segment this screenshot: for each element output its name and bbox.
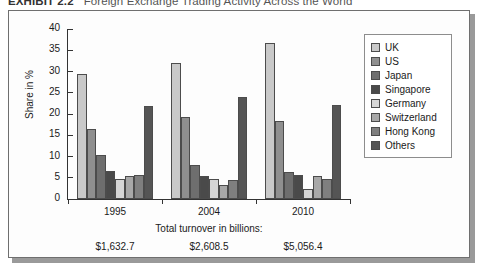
legend-swatch-icon: [371, 57, 380, 66]
legend-swatch-icon: [371, 71, 380, 80]
legend-item-japan[interactable]: Japan: [371, 68, 446, 82]
legend-swatch-icon: [371, 127, 380, 136]
legend-label: US: [385, 56, 399, 67]
bar-uk-1995: [77, 74, 87, 199]
legend-swatch-icon: [371, 43, 380, 52]
turnover-caption: Total turnover in billions:: [155, 223, 262, 234]
turnover-value-2004: $2,608.5: [190, 241, 229, 252]
y-tick-label: 20: [49, 107, 60, 118]
bar-us-1995: [87, 129, 97, 199]
legend-item-us[interactable]: US: [371, 54, 446, 68]
bar-germany-2004: [209, 179, 219, 199]
legend-label: Japan: [385, 70, 412, 81]
chart-container: Share in % 0510152025303540 199520042010…: [9, 11, 471, 259]
bar-switzerland-1995: [125, 176, 135, 199]
x-tick-mark: [256, 199, 257, 204]
y-tick-label: 30: [49, 65, 60, 76]
y-tick-label: 5: [54, 171, 60, 182]
legend-label: Germany: [385, 98, 426, 109]
x-axis-label-1995: 1995: [104, 206, 126, 217]
y-tick-label: 40: [49, 22, 60, 33]
x-tick-mark: [350, 199, 351, 204]
legend-item-switzerland[interactable]: Switzerland: [371, 110, 446, 124]
bar-others-2004: [238, 97, 248, 199]
exhibit-title: EXHIBIT 2.2Foreign Exchange Trading Acti…: [8, 0, 352, 9]
legend-label: Switzerland: [385, 112, 437, 123]
legend-label: Singapore: [385, 84, 431, 95]
bar-hong-kong-1995: [134, 175, 144, 199]
x-tick-mark: [68, 199, 69, 204]
bar-others-2010: [332, 105, 342, 199]
legend-label: Hong Kong: [385, 126, 435, 137]
bar-singapore-1995: [106, 171, 116, 199]
y-tick-label: 10: [49, 150, 60, 161]
bar-singapore-2010: [294, 175, 304, 199]
legend-item-singapore[interactable]: Singapore: [371, 82, 446, 96]
legend-label: UK: [385, 42, 399, 53]
turnover-value-1995: $1,632.7: [96, 241, 135, 252]
bar-japan-2004: [190, 165, 200, 199]
bar-switzerland-2010: [313, 176, 323, 199]
bar-hong-kong-2004: [228, 180, 238, 199]
exhibit-number: EXHIBIT 2.2: [8, 0, 74, 7]
bar-switzerland-2004: [219, 185, 229, 199]
legend-item-hong-kong[interactable]: Hong Kong: [371, 124, 446, 138]
bar-japan-1995: [96, 155, 106, 199]
legend-swatch-icon: [371, 141, 380, 150]
bar-germany-2010: [303, 189, 313, 199]
bar-others-1995: [144, 106, 154, 199]
legend-swatch-icon: [371, 99, 380, 108]
legend-swatch-icon: [371, 113, 380, 122]
bar-japan-2010: [284, 172, 294, 199]
y-tick-label: 35: [49, 43, 60, 54]
x-tick-mark: [162, 199, 163, 204]
bar-uk-2004: [171, 63, 181, 199]
bar-uk-2010: [265, 43, 275, 199]
legend-item-others[interactable]: Others: [371, 138, 446, 152]
plot-area: 0510152025303540 199520042010 Total turn…: [67, 29, 350, 200]
x-axis-label-2004: 2004: [198, 206, 220, 217]
bar-hong-kong-2010: [322, 179, 332, 199]
y-tick-label: 15: [49, 128, 60, 139]
x-axis-label-2010: 2010: [292, 206, 314, 217]
bar-us-2010: [275, 121, 285, 199]
bar-singapore-2004: [200, 176, 210, 199]
y-tick-label: 25: [49, 86, 60, 97]
figure-panel: Share in % 0510152025303540 199520042010…: [8, 10, 470, 258]
y-tick-label: 0: [54, 192, 60, 203]
bars-layer: [68, 29, 350, 199]
exhibit-name: Foreign Exchange Trading Activity Across…: [84, 0, 353, 7]
turnover-value-2010: $5,056.4: [284, 241, 323, 252]
legend-item-uk[interactable]: UK: [371, 40, 446, 54]
chart-legend: UKUSJapanSingaporeGermanySwitzerlandHong…: [364, 34, 452, 158]
legend-swatch-icon: [371, 85, 380, 94]
bar-us-2004: [181, 117, 191, 199]
bar-germany-1995: [115, 179, 125, 199]
y-axis-title: Share in %: [24, 35, 35, 155]
legend-item-germany[interactable]: Germany: [371, 96, 446, 110]
legend-label: Others: [385, 140, 415, 151]
